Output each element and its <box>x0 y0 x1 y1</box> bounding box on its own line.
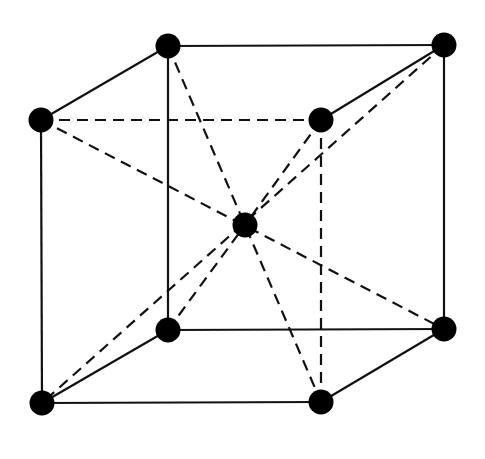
atom-body-center <box>233 213 258 238</box>
atom-front-bottom-left <box>30 391 55 416</box>
atom-back-top-left <box>156 34 181 59</box>
solid-edge <box>41 120 42 403</box>
atom-back-top-right <box>432 33 457 58</box>
solid-edge <box>321 45 444 120</box>
bcc-unit-cell-diagram <box>0 0 485 459</box>
atom-back-bottom-right <box>432 317 457 342</box>
solid-edge <box>168 45 444 46</box>
atom-front-top-right <box>309 108 334 133</box>
solid-edge <box>321 329 444 402</box>
solid-edge <box>168 329 444 330</box>
atom-back-bottom-left <box>156 318 181 343</box>
solid-edge <box>41 46 168 120</box>
dashed-edge <box>168 225 245 330</box>
atom-front-bottom-right <box>309 390 334 415</box>
solid-edge <box>42 330 168 403</box>
atom-front-top-left <box>29 108 54 133</box>
solid-edge <box>42 402 321 403</box>
dashed-edge <box>245 120 321 225</box>
